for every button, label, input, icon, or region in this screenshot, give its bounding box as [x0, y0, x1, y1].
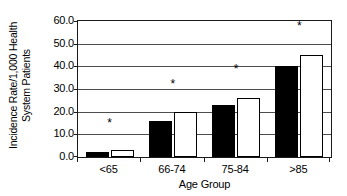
significance-asterisk: * [297, 23, 302, 29]
x-tick-label-66-74: 66-74 [158, 163, 185, 176]
y-tick-mark [74, 44, 78, 45]
y-tick-label: 0.0 [40, 151, 74, 162]
x-axis-tick-labels: <6566-7475-84>85 [77, 163, 332, 177]
y-axis-title-line-2: System Patients [20, 21, 33, 148]
y-tick-mark [74, 112, 78, 113]
y-tick-mark [74, 66, 78, 67]
y-tick-mark [74, 134, 78, 135]
significance-asterisk: * [107, 120, 112, 126]
y-tick-label: 50.0 [40, 37, 74, 48]
x-tick-mark [140, 158, 141, 162]
y-axis-title-line-1: Incidence Rate/1,000 Health [8, 21, 21, 148]
x-axis-title: Age Group [77, 178, 332, 191]
y-tick-label: 60.0 [40, 15, 74, 26]
x-tick-mark [267, 158, 268, 162]
y-tick-mark [74, 21, 78, 22]
x-tick-mark [204, 158, 205, 162]
bar-white-series-66-74 [174, 112, 197, 157]
bar-black-series-75-84 [212, 105, 235, 157]
y-tick-label: 40.0 [40, 60, 74, 71]
y-tick-mark [74, 156, 78, 157]
y-tick-mark [74, 89, 78, 90]
x-tick-label-75-84: 75-84 [222, 163, 249, 176]
bar-black-series-<65 [86, 152, 109, 157]
bar-black-series-66-74 [149, 121, 172, 157]
x-tick-mark [329, 158, 330, 162]
significance-asterisk: * [171, 81, 176, 87]
x-tick-mark [77, 158, 78, 162]
bar-white-series-75-84 [237, 98, 260, 157]
significance-asterisk: * [234, 66, 239, 72]
y-tick-label: 10.0 [40, 128, 74, 139]
bar-white-series-<65 [111, 150, 134, 157]
x-tick-label-<65: <65 [100, 163, 118, 176]
x-tick-label->85: >85 [289, 163, 307, 176]
chart-figure: Incidence Rate/1,000 Health System Patie… [0, 0, 347, 196]
bar-black-series->85 [275, 66, 298, 157]
plot-area: **** [77, 20, 332, 158]
y-axis-tick-labels: 0.010.020.030.040.050.060.0 [38, 0, 74, 196]
y-axis-title: Incidence Rate/1,000 Health System Patie… [0, 0, 40, 170]
gridline [78, 44, 331, 45]
y-tick-label: 30.0 [40, 83, 74, 94]
bar-white-series->85 [300, 55, 323, 157]
y-tick-label: 20.0 [40, 105, 74, 116]
